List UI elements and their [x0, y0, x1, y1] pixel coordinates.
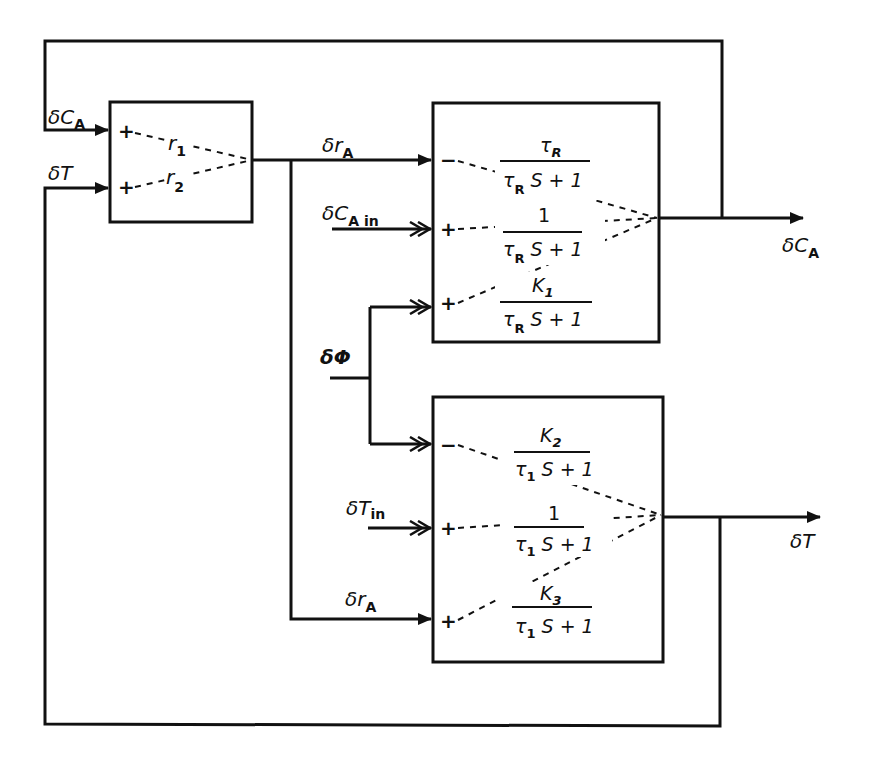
temp-sign-2: +	[440, 516, 457, 540]
label-drA-bottom: δrA	[345, 587, 376, 615]
feedback-line-t	[45, 188, 720, 726]
label-dCA-feedback: δCA	[48, 105, 85, 132]
label-dT-out: δT	[790, 529, 816, 553]
block-diagram: + + r1 r2 δCA δT − + + τR τR S + 1 1 τR …	[0, 0, 872, 763]
conc-tf2-num: 1	[538, 204, 550, 226]
rate-block-paths	[135, 133, 252, 187]
label-dCAin: δCA in	[322, 201, 379, 229]
feedback-line-ca	[45, 41, 722, 218]
label-dCA-out: δCA	[782, 233, 819, 261]
rate-sign-2: +	[118, 175, 135, 199]
temp-tf2-num: 1	[548, 502, 560, 524]
label-dT-feedback: δT	[48, 161, 74, 185]
label-dPhi: δΦ	[320, 345, 351, 369]
rate-sign-1: +	[118, 119, 135, 143]
label-drA-top: δrA	[322, 133, 353, 161]
label-dTin: δTin	[346, 496, 385, 522]
input-dPhi-line	[330, 307, 431, 444]
temp-sign-1: −	[440, 433, 457, 457]
conc-sign-3: +	[440, 291, 457, 315]
conc-sign-1: −	[440, 148, 457, 172]
temp-sign-3: +	[440, 609, 457, 633]
conc-sign-2: +	[440, 217, 457, 241]
